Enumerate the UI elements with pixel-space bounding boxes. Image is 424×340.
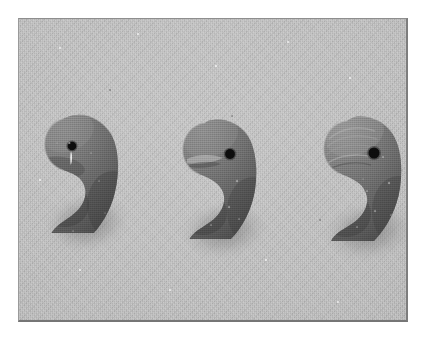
background-speck <box>59 47 61 49</box>
bead-perforation <box>225 149 235 159</box>
bead-right <box>303 95 408 241</box>
background-speck <box>109 89 111 91</box>
background-speck <box>337 301 339 303</box>
background-speck <box>137 33 139 35</box>
photo-plate <box>18 18 408 322</box>
scan-sheet <box>0 0 424 340</box>
bead-perforation <box>369 148 380 159</box>
bead-center <box>163 97 275 239</box>
background-speck <box>349 77 351 79</box>
background-speck <box>169 289 171 291</box>
bead-left <box>27 93 137 233</box>
background-speck <box>215 65 217 67</box>
background-speck <box>287 41 289 43</box>
background-speck <box>265 259 267 261</box>
background-speck <box>79 269 81 271</box>
